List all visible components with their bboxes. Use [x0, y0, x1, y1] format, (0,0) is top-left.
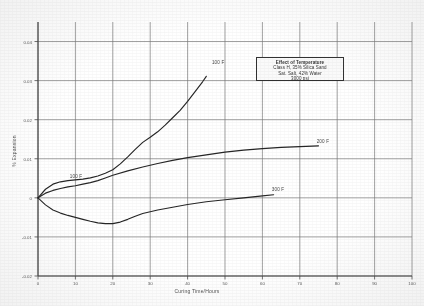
x-tick-label: 100 [408, 281, 415, 286]
y-tick-label: 0.03 [23, 78, 32, 83]
y-tick-label: 0 [30, 195, 32, 200]
x-tick-label: 80 [335, 281, 340, 286]
series-line-300-f [38, 195, 274, 224]
y-tick-label: -0.02 [22, 274, 32, 279]
curve-label: 100 F [212, 60, 225, 65]
y-tick-label: -0.01 [22, 234, 32, 239]
plot-area [0, 0, 424, 306]
series-line-100-f [38, 76, 206, 198]
x-axis-title: Curing Time/Hours [174, 288, 219, 294]
curve-label: 200 F [317, 139, 330, 144]
curve-label: 100 F [70, 174, 83, 179]
x-tick-label: 70 [297, 281, 302, 286]
y-tick-label: 0.02 [23, 117, 32, 122]
x-tick-label: 60 [260, 281, 265, 286]
x-tick-label: 40 [185, 281, 190, 286]
x-tick-label: 10 [73, 281, 78, 286]
x-tick-label: 50 [223, 281, 228, 286]
chart-figure: Curing Time/Hours % Expansion Effect of … [0, 0, 424, 306]
x-tick-label: 20 [110, 281, 115, 286]
legend-box: Effect of Temperature Class H, 35% Silic… [256, 57, 344, 81]
x-tick-label: 90 [372, 281, 377, 286]
y-tick-label: 0.01 [23, 156, 32, 161]
y-axis-title: % Expansion [11, 121, 17, 181]
y-tick-label: 0.04 [23, 39, 32, 44]
curve-label: 300 F [272, 187, 285, 192]
x-tick-label: 30 [148, 281, 153, 286]
legend-line-pressure: 3000 psi [257, 76, 343, 81]
x-tick-label: 0 [37, 281, 39, 286]
